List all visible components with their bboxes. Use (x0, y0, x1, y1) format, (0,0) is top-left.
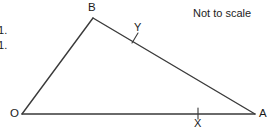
point-label-x: X (194, 118, 201, 129)
vertex-label-a: A (259, 108, 267, 119)
geometry-figure: B O A X Y Not to scale : 1. : 1. (0, 0, 267, 130)
point-label-y: Y (134, 22, 141, 33)
side-ba (93, 18, 255, 114)
side-ob (22, 18, 93, 114)
not-to-scale-note: Not to scale (193, 8, 251, 19)
ratio-text-block: : 1. : 1. (0, 23, 16, 53)
ratio-line-1: : 1. (0, 23, 16, 38)
ratio-line-2: : 1. (0, 38, 16, 53)
triangle-diagram (0, 0, 267, 130)
tick-mark-y-icon (132, 33, 138, 43)
vertex-label-b: B (88, 2, 96, 13)
vertex-label-o: O (10, 108, 19, 119)
